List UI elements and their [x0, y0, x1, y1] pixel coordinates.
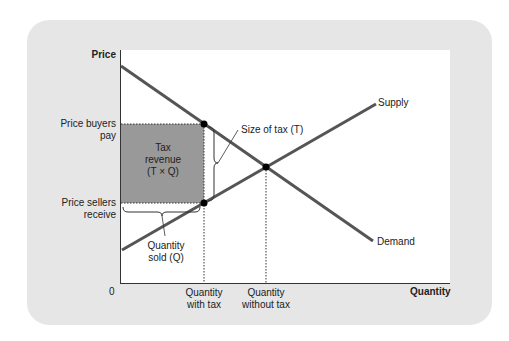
tax-size-label: Size of tax (T): [241, 124, 303, 136]
price-buyers-pay-label: Price buyers pay: [40, 118, 116, 142]
demand-label: Demand: [377, 236, 415, 248]
quantity-without-tax-label: Quantity without tax: [234, 287, 298, 311]
origin-label: 0: [109, 286, 115, 298]
buyers-price-point: [201, 121, 208, 128]
price-sellers-receive-label: Price sellers receive: [40, 197, 116, 221]
quantity-sold-label: Quantity sold (Q): [138, 240, 194, 264]
tax-size-brace: [208, 127, 218, 201]
x-axis-label: Quantity: [410, 286, 451, 298]
supply-label: Supply: [378, 97, 409, 109]
quantity-with-tax-label: Quantity with tax: [174, 287, 234, 311]
tax-revenue-label: Tax revenue (T × Q): [126, 142, 200, 178]
quantity-sold-brace: [123, 207, 200, 216]
sellers-price-point: [201, 200, 208, 207]
y-axis-label: Price: [70, 49, 116, 61]
equilibrium-point: [263, 164, 270, 171]
